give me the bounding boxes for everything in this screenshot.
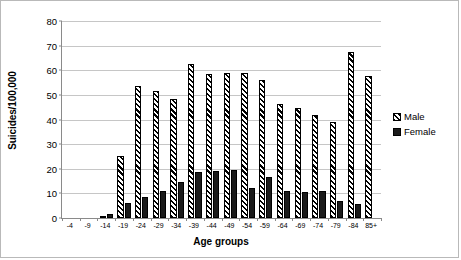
bar-female--74 bbox=[319, 191, 325, 218]
x-tick-mark bbox=[80, 218, 81, 221]
bar-group bbox=[310, 21, 328, 218]
x-tick-label: -4 bbox=[67, 222, 73, 229]
legend-label-male: Male bbox=[404, 111, 425, 122]
bar-group bbox=[62, 21, 80, 218]
hatched-swatch-icon bbox=[393, 113, 401, 121]
x-tick-label: -49 bbox=[224, 222, 234, 229]
bar-male--69 bbox=[295, 108, 301, 218]
bar-group bbox=[80, 21, 98, 218]
bar-group bbox=[97, 21, 115, 218]
bar-female--24 bbox=[142, 197, 148, 218]
y-axis-title-label: Suicides/100,000 bbox=[7, 71, 18, 149]
bar-male--19 bbox=[117, 156, 123, 218]
x-tick-mark bbox=[204, 218, 205, 221]
x-axis-title: Age groups bbox=[61, 236, 381, 247]
x-tick-mark bbox=[328, 218, 329, 221]
x-tick-mark bbox=[363, 218, 364, 221]
x-tick-label: -24 bbox=[136, 222, 146, 229]
y-tick-label: 60 bbox=[46, 65, 57, 76]
x-tick-mark bbox=[168, 218, 169, 221]
bar-female--84 bbox=[355, 204, 361, 218]
bar-female--19 bbox=[125, 203, 131, 218]
bar-male--84 bbox=[348, 52, 354, 218]
x-tick-label: -34 bbox=[171, 222, 181, 229]
bar-female--34 bbox=[178, 182, 184, 218]
bar-male--34 bbox=[170, 99, 176, 218]
x-tick-label: -9 bbox=[84, 222, 90, 229]
y-axis-title: Suicides/100,000 bbox=[3, 1, 21, 219]
bar-group bbox=[204, 21, 222, 218]
bars-layer bbox=[62, 21, 381, 218]
x-tick-mark bbox=[381, 218, 382, 221]
y-tick-label: 50 bbox=[46, 89, 57, 100]
x-tick-mark bbox=[133, 218, 134, 221]
y-tick-label: 70 bbox=[46, 40, 57, 51]
bar-female--64 bbox=[284, 191, 290, 218]
bar-male--49 bbox=[224, 73, 230, 218]
bar-male--59 bbox=[259, 80, 265, 218]
bar-group bbox=[346, 21, 364, 218]
suicide-rate-bar-chart: Suicides/100,000 01020304050607080 -4-9-… bbox=[0, 0, 459, 258]
plot-area: 01020304050607080 bbox=[61, 21, 381, 219]
bar-male--29 bbox=[153, 91, 159, 218]
x-axis-tick-labels: -4-9-14-19-24-29-34-39-44-49-54-59-64-69… bbox=[61, 222, 381, 234]
y-tick-label: 40 bbox=[46, 114, 57, 125]
y-tick-label: 80 bbox=[46, 16, 57, 27]
legend-item-male: Male bbox=[393, 111, 436, 122]
x-tick-mark bbox=[310, 218, 311, 221]
bar-male--64 bbox=[277, 104, 283, 219]
bar-female--14 bbox=[107, 214, 113, 218]
x-tick-mark bbox=[97, 218, 98, 221]
bar-female--44 bbox=[213, 171, 219, 218]
x-tick-mark bbox=[151, 218, 152, 221]
bar-group bbox=[133, 21, 151, 218]
bar-group bbox=[239, 21, 257, 218]
x-tick-label: -74 bbox=[313, 222, 323, 229]
x-tick-label: -44 bbox=[207, 222, 217, 229]
bar-male--39 bbox=[188, 64, 194, 218]
bar-female--69 bbox=[302, 192, 308, 218]
x-tick-label: -14 bbox=[100, 222, 110, 229]
bar-female--54 bbox=[249, 188, 255, 218]
x-tick-label: -79 bbox=[331, 222, 341, 229]
x-tick-label: -64 bbox=[277, 222, 287, 229]
bar-female--29 bbox=[160, 191, 166, 218]
bar-group bbox=[222, 21, 240, 218]
x-tick-label: -59 bbox=[260, 222, 270, 229]
x-tick-mark bbox=[239, 218, 240, 221]
bar-male-85+ bbox=[365, 76, 371, 218]
x-tick-mark bbox=[275, 218, 276, 221]
x-tick-label: -19 bbox=[118, 222, 128, 229]
x-tick-label: -39 bbox=[189, 222, 199, 229]
x-tick-mark bbox=[346, 218, 347, 221]
bar-male--79 bbox=[330, 122, 336, 218]
x-tick-label: -29 bbox=[153, 222, 163, 229]
bar-male--54 bbox=[241, 73, 247, 218]
bar-group bbox=[328, 21, 346, 218]
x-tick-mark bbox=[222, 218, 223, 221]
bar-female--59 bbox=[266, 177, 272, 218]
x-tick-label: 85+ bbox=[365, 222, 377, 229]
bar-female--49 bbox=[231, 170, 237, 218]
bar-male--14 bbox=[100, 216, 106, 218]
bar-female--39 bbox=[195, 172, 201, 218]
x-tick-mark bbox=[62, 218, 63, 221]
legend-item-female: Female bbox=[393, 126, 436, 137]
x-tick-mark bbox=[292, 218, 293, 221]
bar-group bbox=[257, 21, 275, 218]
bar-group bbox=[292, 21, 310, 218]
bar-group bbox=[275, 21, 293, 218]
y-tick-label: 10 bbox=[46, 188, 57, 199]
bar-male--44 bbox=[206, 74, 212, 218]
bar-group bbox=[168, 21, 186, 218]
x-tick-label: -84 bbox=[348, 222, 358, 229]
bar-group bbox=[186, 21, 204, 218]
legend-label-female: Female bbox=[404, 126, 436, 137]
x-tick-mark bbox=[115, 218, 116, 221]
x-tick-mark bbox=[257, 218, 258, 221]
x-tick-label: -54 bbox=[242, 222, 252, 229]
bar-male--24 bbox=[135, 86, 141, 218]
solid-swatch-icon bbox=[393, 128, 401, 136]
bar-female--79 bbox=[337, 201, 343, 218]
y-tick-label: 30 bbox=[46, 139, 57, 150]
